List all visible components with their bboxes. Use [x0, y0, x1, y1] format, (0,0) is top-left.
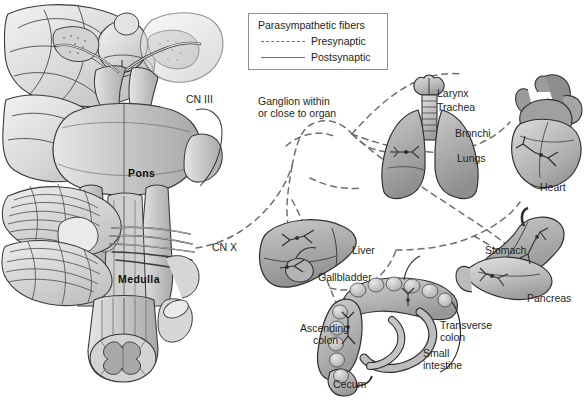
label-stomach: Stomach — [485, 245, 526, 257]
label-cecum: Cecum — [333, 379, 366, 391]
label-lungs: Lungs — [457, 153, 486, 165]
lung-ganglion-dot — [404, 150, 408, 154]
brainstem-panel — [2, 5, 223, 382]
heart-illustration — [512, 75, 582, 189]
solid-line-icon — [261, 57, 305, 59]
label-transverse-colon-line1: Transverse — [440, 320, 492, 332]
label-small-intestine-line2: intestine — [423, 360, 462, 372]
label-trachea: Trachea — [437, 102, 475, 114]
label-pons: Pons — [128, 168, 155, 180]
label-small-intestine-line1: Small — [423, 348, 449, 360]
ganglion-note-line1: Ganglion within — [258, 96, 330, 108]
label-ascending-colon-line2: colon — [313, 335, 338, 347]
label-cn-iii: CN III — [186, 94, 213, 106]
label-transverse-colon-line2: colon — [440, 332, 465, 344]
dashed-line-icon — [261, 41, 305, 43]
label-gallbladder: Gallbladder — [318, 272, 372, 284]
legend-title: Parasympathetic fibers — [258, 19, 365, 31]
label-larynx: Larynx — [437, 88, 469, 100]
legend-item-postsynaptic: Postsynaptic — [311, 51, 371, 63]
label-liver: Liver — [352, 245, 375, 257]
label-pancreas: Pancreas — [527, 293, 571, 305]
legend-item-presynaptic: Presynaptic — [311, 35, 366, 47]
cerebellum-folia — [2, 184, 121, 306]
ganglion-note-line2: or close to organ — [258, 108, 336, 120]
heart-ganglion-dot — [539, 153, 543, 157]
legend-box: Parasympathetic fibers Presynaptic Posts… — [248, 13, 388, 70]
label-medulla: Medulla — [118, 274, 160, 286]
label-ascending-colon-line1: Ascending — [300, 323, 349, 335]
figure-canvas: Parasympathetic fibers Presynaptic Posts… — [0, 0, 588, 400]
label-heart: Heart — [540, 182, 566, 194]
label-cn-x: CN X — [212, 242, 237, 254]
label-bronchi: Bronchi — [455, 128, 491, 140]
